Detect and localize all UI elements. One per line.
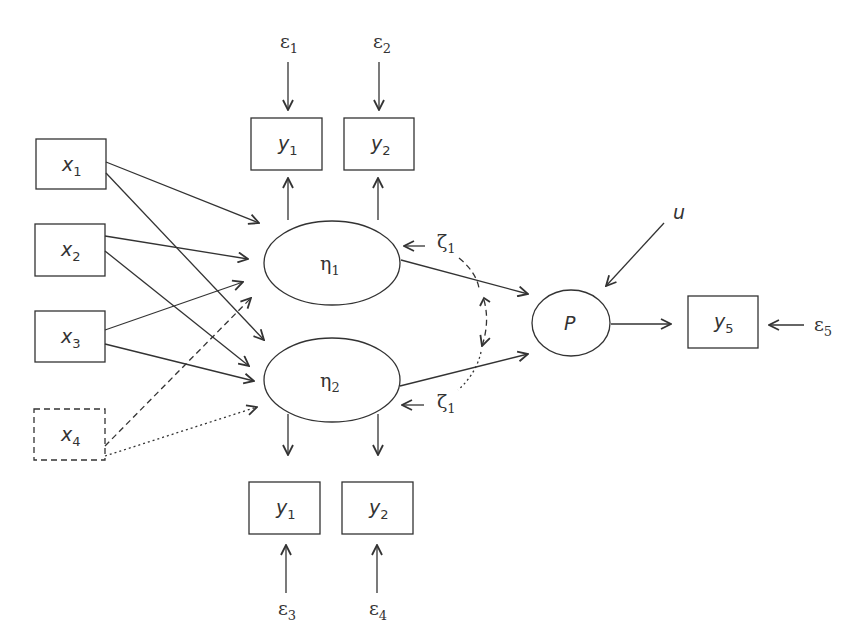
y1-top-label: y [277,132,290,154]
path-u-P [606,223,664,286]
y2-top-label: y [370,132,383,154]
y2-bottom-node: y2 [342,482,413,534]
eta2-node: η2 [264,338,400,422]
epsilon5-label: ε5 [814,313,832,339]
u-label: u [673,201,685,223]
path-eta1-P [401,260,528,294]
y5-label: y [713,310,726,332]
epsilon1-label: ε1 [280,30,298,56]
y1-bottom-node: y1 [249,482,320,534]
eta2-label: η [320,369,331,391]
x3-node: x3 [35,311,105,362]
y5-node: y5 [688,296,758,348]
x3-label: x [60,325,73,347]
sem-path-diagram: x1 x2 x3 x4 η1 η2 y1 y2 ε1 [0,0,850,642]
x1-node: x1 [36,139,106,189]
x4-node: x4 [34,409,105,460]
covariance-curve-top [459,258,479,288]
x2-node: x2 [35,224,105,276]
path-x3-eta2 [105,344,254,381]
eta1-node: η1 [264,221,400,305]
zeta1-label: ζ1 [437,230,456,256]
path-x4-eta1 [105,298,251,446]
path-x2-eta1 [105,236,248,259]
x2-label: x [60,238,73,260]
P-label: P [564,312,576,334]
path-x4-eta2 [105,407,257,456]
y2-bottom-label: y [368,496,381,518]
P-node: P [532,290,610,356]
zeta2-label: ζ1 [437,390,456,416]
covariance-double-arrow [482,300,487,346]
path-eta2-P [400,354,528,386]
epsilon4-label: ε4 [369,597,387,623]
epsilon3-label: ε3 [278,597,296,623]
y2-top-node: y2 [344,118,414,170]
eta1-label: η [320,252,331,274]
x1-label: x [61,153,74,175]
path-x3-eta1 [105,282,243,330]
y1-bottom-label: y [275,496,288,518]
path-x1-eta1 [106,162,259,223]
epsilon2-label: ε2 [373,30,391,56]
x-to-eta-paths [105,162,264,456]
x4-label: x [60,423,73,445]
y1-top-node: y1 [251,118,322,170]
